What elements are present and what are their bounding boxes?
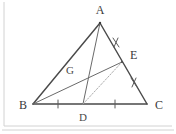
label-g: G — [66, 64, 74, 76]
label-e: E — [130, 48, 137, 62]
point-a-dot — [99, 22, 101, 24]
tick-ec — [131, 78, 137, 87]
segment-de-dotted — [83, 62, 122, 104]
segment-ac — [100, 23, 147, 104]
page-frame — [4, 2, 172, 126]
label-d: D — [79, 111, 87, 123]
label-c: C — [155, 98, 163, 112]
label-a: A — [96, 3, 105, 17]
point-e-dot — [121, 61, 123, 63]
label-b: B — [19, 98, 27, 112]
segment-be-median — [33, 62, 122, 104]
segment-ad-median — [83, 23, 100, 104]
geometry-figure: A B C D E G — [0, 0, 176, 134]
geometry-canvas: A B C D E G — [0, 0, 176, 134]
